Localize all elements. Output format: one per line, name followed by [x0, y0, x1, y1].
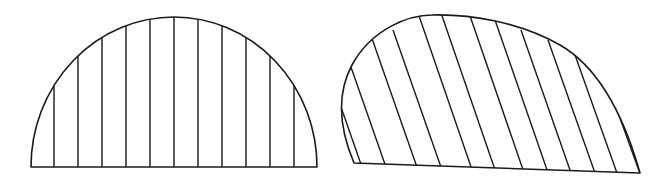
right-skewed-dome: [321, 10, 646, 183]
vertical-hatching: [54, 0, 294, 183]
right-shape-outline: [342, 15, 640, 173]
figure-canvas: [0, 0, 668, 183]
left-semi-ellipse: [31, 0, 317, 183]
oblique-hatching: [321, 10, 646, 183]
